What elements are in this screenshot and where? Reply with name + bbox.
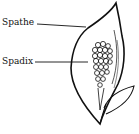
spadix-label: Spadix (2, 57, 33, 66)
spathe-label: Spathe (2, 18, 34, 27)
spathe-leader-line (37, 24, 86, 27)
spadix-florets (92, 41, 112, 87)
spathe-inner-line (112, 30, 117, 84)
leaf-outline (104, 86, 134, 114)
spadix-stalk (98, 88, 104, 110)
